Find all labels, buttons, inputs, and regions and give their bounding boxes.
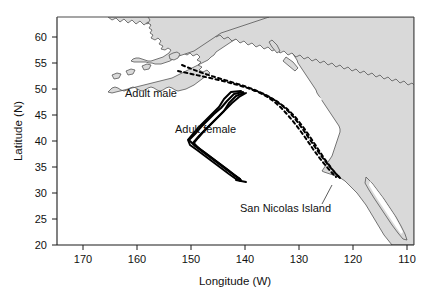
y-axis-title: Latitude (N) xyxy=(12,101,24,161)
x-tick-label-150: 150 xyxy=(182,253,200,265)
figure-container: 60 55 50 45 40 35 30 25 20 170 160 150 1… xyxy=(0,0,439,301)
y-tick-label-50: 50 xyxy=(35,83,47,95)
y-tick-label-55: 55 xyxy=(35,57,47,69)
y-tick-label-45: 45 xyxy=(35,109,47,121)
label-san-nicolas-island: San Nicolas Island xyxy=(240,202,331,214)
x-tick-label-160: 160 xyxy=(128,253,146,265)
y-axis-tick-labels: 60 55 50 45 40 35 30 25 20 xyxy=(35,31,47,251)
y-tick-label-25: 25 xyxy=(35,213,47,225)
y-tick-label-30: 30 xyxy=(35,187,47,199)
y-tick-label-35: 35 xyxy=(35,161,47,173)
y-tick-label-40: 40 xyxy=(35,135,47,147)
x-tick-label-140: 140 xyxy=(236,253,254,265)
x-tick-label-170: 170 xyxy=(74,253,92,265)
x-tick-label-110: 110 xyxy=(398,253,416,265)
y-tick-label-60: 60 xyxy=(35,31,47,43)
x-tick-label-130: 130 xyxy=(290,253,308,265)
x-tick-label-120: 120 xyxy=(344,253,362,265)
x-axis-title: Longitude (W) xyxy=(199,275,271,287)
map-figure: 60 55 50 45 40 35 30 25 20 170 160 150 1… xyxy=(0,0,439,301)
label-adult-male: Adult male xyxy=(125,87,177,99)
y-tick-label-20: 20 xyxy=(35,239,47,251)
label-adult-female: Adult female xyxy=(175,123,236,135)
